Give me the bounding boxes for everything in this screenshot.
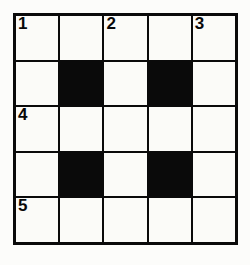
crossword-cell[interactable]: 4 <box>16 107 58 151</box>
crossword-cell[interactable] <box>60 107 102 151</box>
cell-number: 4 <box>18 107 27 123</box>
crossword-cell[interactable]: 1 <box>16 16 58 60</box>
crossword-cell[interactable]: 3 <box>193 16 235 60</box>
crossword-cell[interactable]: 5 <box>16 198 58 242</box>
crossword-cell[interactable] <box>149 16 191 60</box>
crossword-cell[interactable] <box>193 153 235 197</box>
crossword-cell[interactable] <box>16 153 58 197</box>
crossword-cell[interactable] <box>104 62 146 106</box>
cell-number: 5 <box>18 198 27 214</box>
crossword-block-cell <box>149 153 191 197</box>
cell-number: 2 <box>106 16 115 32</box>
crossword-cell[interactable] <box>104 107 146 151</box>
cell-number: 1 <box>18 16 27 32</box>
crossword-cell[interactable] <box>193 107 235 151</box>
crossword-puzzle-container: 12345 <box>0 0 250 265</box>
crossword-cell[interactable] <box>60 198 102 242</box>
crossword-cell[interactable] <box>60 16 102 60</box>
crossword-cell[interactable] <box>149 198 191 242</box>
crossword-cell[interactable] <box>193 198 235 242</box>
cell-number: 3 <box>195 16 204 32</box>
crossword-cell[interactable]: 2 <box>104 16 146 60</box>
crossword-cell[interactable] <box>16 62 58 106</box>
crossword-block-cell <box>60 62 102 106</box>
crossword-cell[interactable] <box>149 107 191 151</box>
crossword-block-cell <box>60 153 102 197</box>
crossword-cell[interactable] <box>193 62 235 106</box>
crossword-block-cell <box>149 62 191 106</box>
crossword-grid: 12345 <box>13 13 238 245</box>
crossword-cell[interactable] <box>104 198 146 242</box>
crossword-cell[interactable] <box>104 153 146 197</box>
